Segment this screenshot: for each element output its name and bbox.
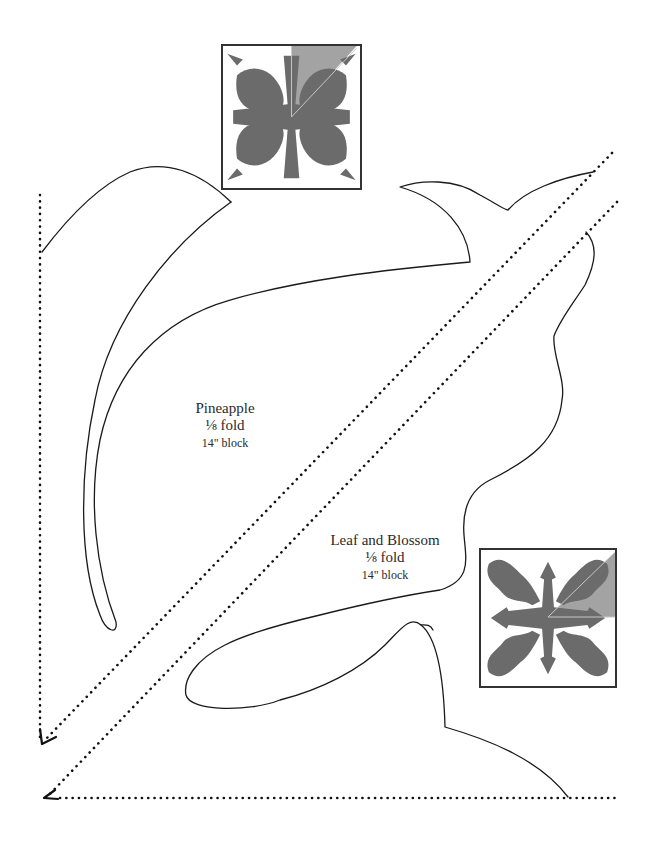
pineapple-crown-outline — [42, 167, 231, 252]
leaf-blossom-outline — [186, 232, 595, 797]
leaf-blossom-block-thumbnail — [479, 548, 617, 688]
pattern-fold: ⅛ fold — [300, 549, 470, 566]
pattern-name: Leaf and Blossom — [300, 532, 470, 549]
pattern-block-size: 14" block — [170, 437, 280, 451]
pattern-block-size: 14" block — [300, 569, 470, 583]
pineapple-label: Pineapple ⅛ fold 14" block — [170, 400, 280, 450]
leaf-blossom-applique-icon — [487, 560, 608, 677]
leaf-fold-line-diagonal — [47, 202, 617, 797]
pattern-fold: ⅛ fold — [170, 417, 280, 434]
pineapple-block-thumbnail — [221, 44, 362, 190]
leaf-blossom-label: Leaf and Blossom ⅛ fold 14" block — [300, 532, 470, 582]
pattern-name: Pineapple — [170, 400, 280, 417]
